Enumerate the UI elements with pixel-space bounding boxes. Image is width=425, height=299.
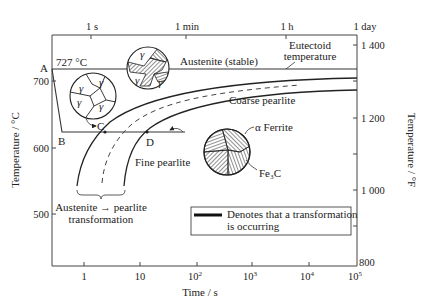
right-tick-1000: 1 000 [361,185,385,196]
top-tick-1min: 1 min [175,21,200,32]
top-tick-1s: 1 s [86,21,98,32]
left-tick-500: 500 [33,209,49,220]
svg-text:γ: γ [135,74,140,86]
ttt-diagram: 1 s 1 min 1 h 1 day 1 10 102 103 104 105… [0,0,425,299]
pearlite-circle [204,127,257,176]
right-tick-1400: 1 400 [361,40,385,51]
bottom-tick-1e4: 104 [300,270,315,282]
temp-727-label: 727 °C [56,56,87,68]
alpha-ferrite-label: α Ferrite [255,121,293,133]
legend-text-1: Denotes that a transformation [227,208,358,220]
point-a-label: A [40,62,48,74]
fe3c-label: Fe₃C [259,167,281,179]
bottom-tick-1e2: 102 [188,270,203,282]
bottom-axis: 1 10 102 103 104 105 Time / s [81,262,362,298]
transformation-label-1: Austenite → pearlite [55,201,147,213]
transformation-brace: Austenite → pearlite transformation [55,190,147,225]
fine-pearlite-label: Fine pearlite [135,156,190,168]
point-b-label: B [58,135,65,147]
y-axis-left-title: Temperature / °C [9,112,21,188]
ferrite-pointer [245,127,254,134]
left-tick-600: 600 [33,143,49,154]
right-axis: 1 400 1 200 1 000 800 Temperature / °F [353,40,418,268]
right-tick-1200: 1 200 [361,113,385,124]
eutectoid-pointer [286,62,295,69]
point-d-label: D [146,136,154,148]
transformation-label-2: transformation [69,213,134,225]
svg-text:γ: γ [79,82,84,94]
top-axis: 1 s 1 min 1 h 1 day [86,21,377,39]
svg-text:γ: γ [99,100,104,112]
top-tick-1day: 1 day [353,21,377,32]
point-c-label: C [97,120,104,132]
top-tick-1h: 1 h [280,21,294,32]
eutectoid-label-2: temperature [284,50,337,62]
coarse-pearlite-label: Coarse pearlite [229,94,295,106]
bottom-tick-1: 1 [81,271,86,282]
left-tick-700: 700 [33,76,49,87]
bottom-tick-10: 10 [135,271,146,282]
x-axis-title: Time / s [182,286,218,298]
svg-text:γ: γ [99,76,104,88]
right-tick-800: 800 [359,257,375,268]
y-axis-right-title: Temperature / °F [406,113,418,188]
svg-text:γ: γ [140,48,145,60]
legend: Denotes that a transformation is occurri… [191,207,358,235]
left-axis: 700 600 500 Temperature / °C [9,76,56,220]
partial-transformation-circle: γ γ γ [127,47,169,89]
bottom-tick-1e5: 105 [348,270,363,282]
svg-text:γ: γ [77,96,82,108]
bottom-tick-1e3: 103 [243,270,258,282]
austenite-stable-label: Austenite (stable) [180,55,258,68]
austenite-grain-circle: γ γ γ γ [70,73,116,120]
legend-text-2: is occurring [227,220,280,232]
svg-text:γ: γ [158,76,163,88]
